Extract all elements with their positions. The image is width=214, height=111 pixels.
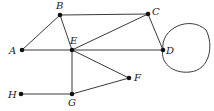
node-h [19,92,24,97]
edge-c-d [148,14,163,50]
edge-b-c [60,14,148,15]
edge-e-f [72,50,129,78]
node-label-e: E [69,35,78,46]
nodes-layer [19,12,166,97]
edges-layer [21,14,163,94]
node-b [58,13,63,18]
node-label-d: D [165,45,174,56]
node-label-a: A [8,45,16,56]
node-label-f: F [133,72,142,83]
node-d [161,48,166,53]
edge-e-c [72,14,148,50]
edge-a-b [22,15,60,50]
node-c [146,12,151,17]
node-f [127,76,132,81]
node-label-h: H [7,89,17,100]
node-e [70,48,75,53]
node-label-b: B [55,0,63,11]
node-label-c: C [152,6,160,17]
graph-diagram: ABCDEFGH [0,0,214,111]
node-a [20,48,25,53]
node-label-g: G [68,97,76,108]
edge-g-f [72,78,129,94]
node-g [70,92,75,97]
